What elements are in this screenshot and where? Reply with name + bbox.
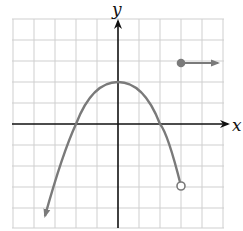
piecewise-graph: x y: [0, 0, 243, 231]
axes: x y: [12, 0, 242, 228]
parabola-curve: [45, 82, 181, 216]
open-circle-endpoint: [177, 182, 185, 190]
closed-dot-endpoint: [177, 59, 186, 68]
x-axis-label: x: [232, 115, 242, 135]
y-axis-label: y: [111, 0, 122, 19]
